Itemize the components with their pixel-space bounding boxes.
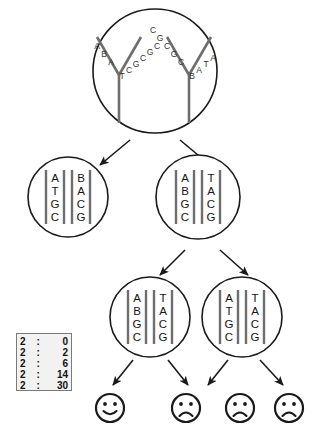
legend-row-right: 0 — [51, 336, 68, 347]
cell-l1-left-strand-left-letter: A — [51, 172, 59, 184]
face-2-eye-left — [179, 402, 183, 406]
legend-row: 2:6 — [20, 358, 68, 369]
face-1-eye-right — [113, 402, 117, 406]
arrow-l2l-to-face-2-icon — [168, 360, 188, 385]
arrow-l2r-to-face-3-icon — [208, 360, 228, 385]
cell-l2-right-strand-right-letter: T — [251, 292, 258, 304]
cell-l1-right-strand-right-letter: C — [207, 198, 215, 210]
cell-l2-left-strand-left-letter: B — [133, 305, 141, 317]
face-1 — [96, 394, 124, 422]
cell-l1-left-strand-left-letter: G — [51, 198, 60, 210]
face-2-outline — [172, 394, 200, 422]
cell-l1-left-strand-right-letter: B — [77, 172, 85, 184]
face-3-outline — [226, 394, 254, 422]
arrow-l1r-to-l2-right-icon — [220, 250, 248, 275]
face-3-eye-right — [243, 402, 247, 406]
cell-l2-right: ATGCTACG — [202, 277, 282, 357]
cell-l2-right-strand-left-letter: C — [225, 331, 233, 343]
cell-l1-left: ATGCBACG — [28, 157, 108, 237]
cell-l1-right-membrane — [156, 155, 240, 239]
fork-right-right-letter: T — [203, 59, 208, 69]
legend-row-right: 2 — [51, 347, 68, 358]
arrow-root-to-l1-left-icon — [100, 140, 130, 165]
fork-left-right-letter: G — [133, 59, 140, 69]
cell-l1-left-strand-right-letter: G — [77, 211, 86, 223]
cell-l1-right-strand-left-letter: G — [181, 198, 190, 210]
cell-l1-right-strand-left-letter: B — [181, 185, 189, 197]
face-4-eye-right — [292, 402, 296, 406]
fork-right-left-letter: C — [150, 25, 156, 35]
fork-left-right-letter: G — [147, 47, 154, 57]
cell-l1-left-strand-left-letter: T — [51, 185, 58, 197]
cell-l1-right-strand-left-letter: A — [181, 172, 189, 184]
legend-row-left: 2 — [20, 358, 26, 369]
cell-l2-left-strand-left-letter: G — [133, 318, 142, 330]
fork-right-right-letter: B — [189, 71, 195, 81]
generation-error-legend: 2:02:22:62:142:30 — [16, 333, 72, 391]
fork-right-left-letter: C — [164, 41, 170, 51]
cell-l2-right-strand-right-letter: C — [251, 318, 259, 330]
fork-right-right-letter: A — [196, 65, 202, 75]
cell-l2-right-strand-left-letter: T — [225, 305, 232, 317]
cell-l1-right: ABGCTACG — [156, 155, 240, 239]
face-4 — [275, 394, 303, 422]
face-2 — [172, 394, 200, 422]
legend-row-separator: : — [37, 336, 40, 347]
legend-row-left: 2 — [20, 347, 26, 358]
legend-row-separator: : — [37, 380, 40, 391]
cell-l1-right-strand-left-letter: C — [181, 211, 189, 223]
fork-left-right-letter: T — [119, 71, 124, 81]
cell-l2-right-membrane — [202, 277, 282, 357]
face-3 — [226, 394, 254, 422]
fork-left-right-letter: C — [126, 65, 132, 75]
cell-l1-left-strand-right-letter: C — [77, 198, 85, 210]
cell-l2-right-strand-right-letter: A — [251, 305, 259, 317]
fork-left-left-letter: A — [94, 41, 100, 51]
legend-row-right: 6 — [51, 358, 68, 369]
legend-rows: 2:02:22:62:142:30 — [20, 336, 68, 391]
legend-row-right: 30 — [51, 380, 68, 391]
face-2-eye-right — [189, 402, 193, 406]
legend-row-left: 2 — [20, 336, 26, 347]
cell-l2-left: ABGCTACG — [110, 277, 190, 357]
cell-l2-left-strand-right-letter: C — [159, 318, 167, 330]
arrow-l1r-to-l2-left-icon — [160, 250, 185, 275]
fork-right-left-letter: G — [171, 49, 178, 59]
cell-l2-left-strand-left-letter: C — [133, 331, 141, 343]
face-1-eye-left — [103, 402, 107, 406]
arrow-l2l-to-face-1-icon — [113, 360, 133, 385]
face-4-outline — [275, 394, 303, 422]
face-4-eye-left — [282, 402, 286, 406]
legend-row: 2:0 — [20, 336, 68, 347]
cell-l1-right-strand-right-letter: T — [207, 172, 214, 184]
cell-l2-left-strand-right-letter: G — [159, 331, 168, 343]
fork-left-right-letter: C — [140, 53, 146, 63]
face-3-eye-left — [233, 402, 237, 406]
legend-row: 2:30 — [20, 380, 68, 391]
cell-l1-left-strand-right-letter: A — [77, 185, 85, 197]
cell-l2-right-strand-left-letter: G — [225, 318, 234, 330]
face-layer — [96, 394, 303, 422]
cell-l1-left-membrane — [28, 157, 108, 237]
cell-l1-right-strand-right-letter: G — [207, 211, 216, 223]
legend-row-separator: : — [37, 369, 40, 380]
legend-row-right: 14 — [51, 369, 68, 380]
cell-l1-left-strand-left-letter: C — [51, 211, 59, 223]
fork-left-left-letter: A — [108, 57, 114, 67]
legend-row-separator: : — [37, 358, 40, 369]
diagram-canvas: ABATCGCGCCGCGCBATAATGCBACGABGCTACGABGCTA… — [0, 0, 315, 435]
arrow-l2r-to-face-4-icon — [260, 360, 283, 385]
fork-right-left-letter: G — [157, 33, 164, 43]
cell-l2-right-strand-right-letter: G — [251, 331, 260, 343]
cell-l2-left-strand-left-letter: A — [133, 292, 141, 304]
legend-row-separator: : — [37, 347, 40, 358]
fork-left-left-letter: B — [101, 49, 107, 59]
legend-row: 2:14 — [20, 369, 68, 380]
cell-l2-left-strand-right-letter: A — [159, 305, 167, 317]
cell-l2-left-membrane — [110, 277, 190, 357]
cell-root: ABATCGCGCCGCGCBATA — [93, 9, 217, 133]
legend-row: 2:2 — [20, 347, 68, 358]
cell-l2-right-strand-left-letter: A — [225, 292, 233, 304]
cell-layer: ABATCGCGCCGCGCBATAATGCBACGABGCTACGABGCTA… — [28, 9, 282, 357]
cell-l1-right-strand-right-letter: A — [207, 185, 215, 197]
